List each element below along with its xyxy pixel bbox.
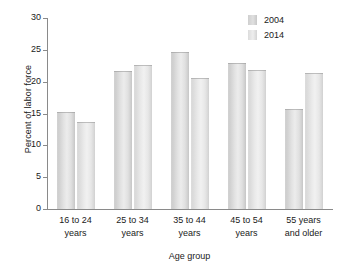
y-tick-label: 10 <box>31 139 41 149</box>
x-axis-label-2: 25 to 34years <box>104 214 161 239</box>
legend-item-2014: 2014 <box>248 27 284 42</box>
x-axis-label-line-1: 25 to 34 <box>116 215 149 225</box>
legend-label-2014: 2014 <box>264 30 284 40</box>
legend-label-2004: 2004 <box>264 15 284 25</box>
x-axis-line <box>47 209 333 210</box>
bar-2004-45-to-54-years <box>228 63 246 209</box>
legend: 20042014 <box>248 12 284 42</box>
plot-area: 051015202530 <box>47 18 332 209</box>
bar-2014-55-years-and-older <box>305 73 323 209</box>
x-axis-label-line-2: years <box>161 227 218 240</box>
x-axis-category-labels: 16 to 24years25 to 34years35 to 44years4… <box>47 214 332 248</box>
y-tick-label: 30 <box>31 12 41 22</box>
bar-2004-35-to-44-years <box>171 52 189 209</box>
bar-top-edge <box>134 65 152 66</box>
x-axis-label-line-1: 55 years <box>286 215 321 225</box>
bar-2004-25-to-34-years <box>114 71 132 209</box>
x-axis-label-3: 35 to 44years <box>161 214 218 239</box>
legend-swatch-2014 <box>248 30 257 40</box>
x-axis-label-1: 16 to 24years <box>47 214 104 239</box>
x-axis-label-line-1: 45 to 54 <box>230 215 263 225</box>
bar-2014-25-to-34-years <box>134 65 152 209</box>
x-axis-label-line-2: years <box>218 227 275 240</box>
bar-2004-16-to-24-years <box>57 112 75 209</box>
bar-top-edge <box>114 71 132 72</box>
bar-chart: Percent of labor force 051015202530 16 t… <box>0 0 342 271</box>
y-tick-mark <box>43 209 47 210</box>
y-tick-label: 0 <box>36 203 41 213</box>
x-axis-label-line-2: years <box>104 227 161 240</box>
x-axis-title: Age group <box>47 251 332 261</box>
x-axis-label-line-2: years <box>47 227 104 240</box>
bar-top-edge <box>77 122 95 123</box>
x-axis-label-line-2: and older <box>275 227 332 240</box>
y-tick-label: 25 <box>31 44 41 54</box>
legend-swatch-2004 <box>248 15 257 25</box>
bar-top-edge <box>248 70 266 71</box>
y-tick-label: 15 <box>31 108 41 118</box>
bar-top-edge <box>305 73 323 74</box>
bar-2014-35-to-44-years <box>191 78 209 209</box>
x-axis-label-5: 55 yearsand older <box>275 214 332 239</box>
bar-2014-16-to-24-years <box>77 122 95 209</box>
y-tick-label: 5 <box>36 171 41 181</box>
bars-layer <box>47 18 332 209</box>
bar-top-edge <box>228 63 246 64</box>
bar-2004-55-years-and-older <box>285 109 303 209</box>
x-axis-label-line-1: 35 to 44 <box>173 215 206 225</box>
legend-item-2004: 2004 <box>248 12 284 27</box>
bar-top-edge <box>191 78 209 79</box>
bar-top-edge <box>57 112 75 113</box>
x-axis-label-4: 45 to 54years <box>218 214 275 239</box>
bar-top-edge <box>171 52 189 53</box>
bar-top-edge <box>285 109 303 110</box>
x-axis-label-line-1: 16 to 24 <box>59 215 92 225</box>
bar-2014-45-to-54-years <box>248 70 266 209</box>
y-tick-label: 20 <box>31 76 41 86</box>
